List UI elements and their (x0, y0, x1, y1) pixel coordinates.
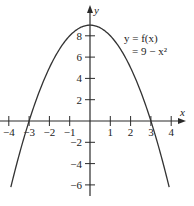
function-annotation-line1: y = f(x) (124, 32, 158, 45)
y-tick-label: −2 (70, 136, 82, 148)
y-tick-label: 8 (77, 30, 83, 42)
x-tick-label: −2 (44, 126, 56, 138)
x-tick-label: 1 (108, 126, 114, 138)
y-axis-label: y (93, 4, 99, 16)
x-ticks: −4−3−2−11234 (3, 116, 175, 138)
function-annotation-line2: = 9 − x² (132, 45, 168, 57)
x-tick-label: −4 (3, 126, 15, 138)
y-tick-label: 6 (77, 51, 83, 63)
x-axis-arrow-icon (178, 118, 186, 124)
y-axis-arrow-icon (87, 5, 93, 13)
y-tick-label: 2 (77, 94, 83, 106)
y-ticks: 8642−2−4−6 (70, 30, 95, 191)
x-tick-label: 2 (128, 126, 134, 138)
x-tick-label: 4 (168, 126, 174, 138)
y-tick-label: −6 (70, 179, 82, 191)
x-axis-label: x (179, 106, 185, 118)
chart: x y −4−3−2−11234 8642−2−4−6 y = f(x) = 9… (0, 0, 194, 206)
y-tick-label: 4 (77, 72, 83, 84)
y-tick-label: −4 (70, 158, 82, 170)
